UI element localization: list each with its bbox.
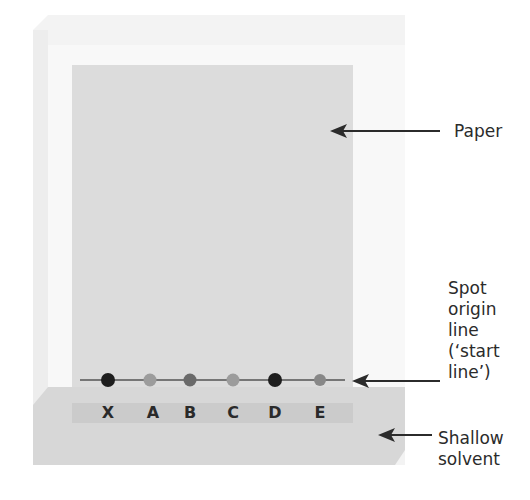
origin-label-line-5: line’): [448, 362, 528, 383]
spot-label-d: D: [265, 403, 285, 422]
origin-label-line-2: origin: [448, 299, 528, 320]
solvent-body: [33, 387, 405, 465]
spot-e: [314, 374, 326, 386]
solvent-label: Shallow solvent: [438, 428, 528, 470]
solvent-label-line-1: Shallow: [438, 428, 528, 449]
paper-label: Paper: [454, 121, 502, 141]
origin-label-line-4: (‘start: [448, 341, 528, 362]
spot-c: [227, 374, 240, 387]
spot-x: [101, 373, 115, 387]
solvent: [33, 387, 405, 465]
spot-b: [184, 374, 197, 387]
spot-label-x: X: [98, 403, 118, 422]
spot-label-c: C: [223, 403, 243, 422]
chromatography-diagram: X A B C D E Paper Spot origin line (‘sta…: [0, 0, 530, 500]
solvent-label-line-2: solvent: [438, 449, 528, 470]
spot-label-e: E: [310, 403, 330, 422]
origin-line-label: Spot origin line (‘start line’): [448, 278, 528, 383]
paper-sheet: [72, 65, 353, 405]
spot-a: [144, 374, 157, 387]
origin-label-line-3: line: [448, 320, 528, 341]
tank-left-edge: [33, 30, 48, 405]
origin-label-line-1: Spot: [448, 278, 528, 299]
diagram-svg: [0, 0, 530, 500]
spot-d: [268, 373, 282, 387]
spot-label-b: B: [180, 403, 200, 422]
spot-label-a: A: [143, 403, 163, 422]
